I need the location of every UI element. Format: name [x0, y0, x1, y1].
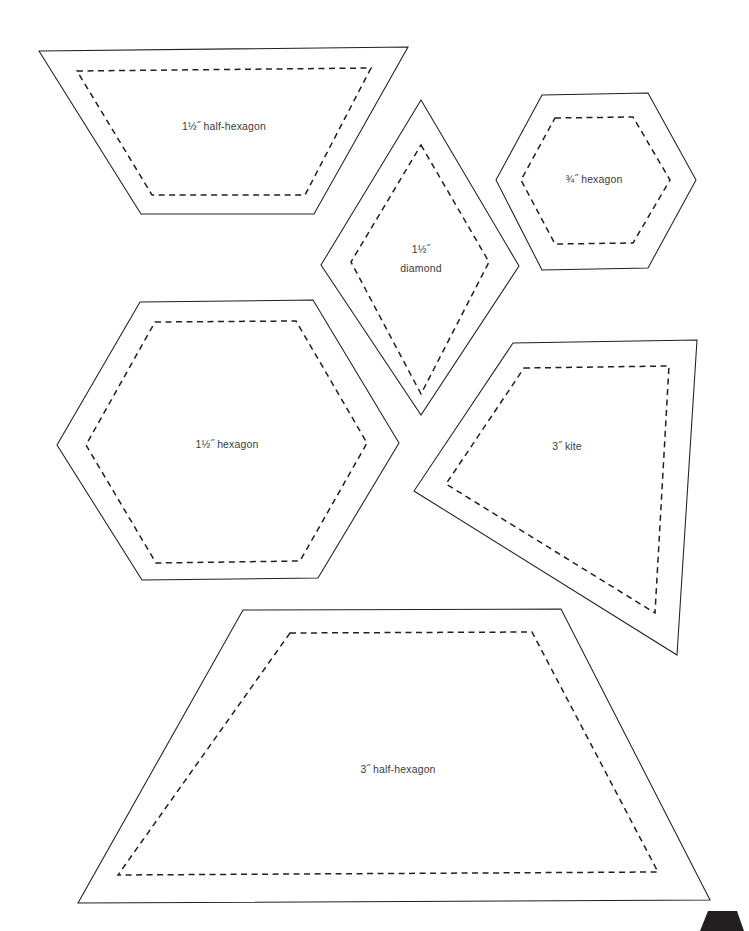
- cut-line-outline: [414, 340, 697, 655]
- shapes-canvas: 1½˝ half-hexagon 1½˝ diamond ¾˝ hexagon …: [0, 0, 749, 931]
- shape-label-half-hexagon-1-5: 1½˝ half-hexagon: [182, 120, 266, 132]
- shape-hexagon-0-75[interactable]: ¾˝ hexagon: [496, 93, 696, 270]
- shape-label-kite-3: 3˝ kite: [552, 440, 582, 452]
- shape-hexagon-1-5[interactable]: 1½˝ hexagon: [57, 300, 399, 580]
- shape-kite-3[interactable]: 3˝ kite: [414, 340, 697, 655]
- shape-half-hexagon-1-5[interactable]: 1½˝ half-hexagon: [39, 47, 408, 214]
- template-sheet: 1½˝ half-hexagon 1½˝ diamond ¾˝ hexagon …: [0, 0, 749, 931]
- shape-half-hexagon-3[interactable]: 3˝ half-hexagon: [78, 609, 710, 903]
- shape-label-hexagon-0-75: ¾˝ hexagon: [566, 173, 623, 185]
- shape-label-half-hexagon-3: 3˝ half-hexagon: [360, 763, 435, 775]
- cut-line-outline: [78, 609, 710, 903]
- shape-label-diamond-1-5-line1: 1½˝: [412, 243, 432, 255]
- shape-label-diamond-1-5-line2: diamond: [400, 262, 441, 274]
- page-corner-mark-icon: [700, 911, 744, 931]
- shape-label-hexagon-1-5: 1½˝ hexagon: [196, 438, 259, 450]
